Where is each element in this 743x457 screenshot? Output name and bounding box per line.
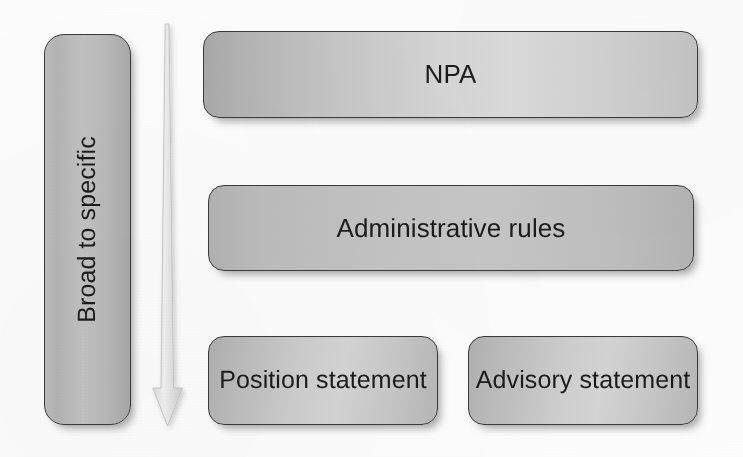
axis-broad-to-specific: Broad to specific <box>44 34 131 425</box>
node-position-statement-label: Position statement <box>219 366 426 395</box>
down-arrow-svg <box>138 22 196 434</box>
diagram-canvas: Broad to specific NPA Administrat <box>0 0 743 457</box>
node-npa-label: NPA <box>425 59 477 90</box>
node-advisory-statement-label: Advisory statement <box>476 366 690 395</box>
node-position-statement: Position statement <box>208 336 438 425</box>
node-administrative-rules: Administrative rules <box>208 185 694 271</box>
axis-label: Broad to specific <box>73 136 102 323</box>
node-npa: NPA <box>203 31 698 118</box>
node-advisory-statement: Advisory statement <box>468 336 698 425</box>
down-arrow-icon <box>138 22 196 434</box>
node-administrative-rules-label: Administrative rules <box>337 213 566 244</box>
